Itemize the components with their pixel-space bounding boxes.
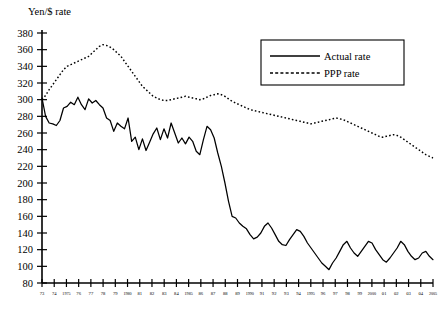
x-tick-label: 73 <box>40 291 45 296</box>
y-tick-label: 360 <box>17 44 33 55</box>
x-tick-label: 76 <box>76 291 81 296</box>
x-tick-label: 1995 <box>307 291 315 296</box>
yen-dollar-rate-chart: Yen/$ rate 80100120140160180200220240260… <box>0 0 440 312</box>
x-tick-label: 1980 <box>123 291 131 296</box>
x-tick-label: 99 <box>357 291 362 296</box>
x-tick-label: 82 <box>150 291 155 296</box>
y-axis-title: Yen/$ rate <box>28 6 71 17</box>
x-tick-label: 1985 <box>185 291 193 296</box>
x-tick-label: 84 <box>174 291 179 296</box>
y-tick-label: 260 <box>17 128 33 139</box>
y-tick-label: 120 <box>17 244 33 255</box>
x-tick-label: 96 <box>321 291 326 296</box>
y-tick-label: 100 <box>17 261 33 272</box>
x-axis-ticks: 7374197576777879198081828384198586878889… <box>40 279 437 296</box>
x-tick-label: 98 <box>345 291 350 296</box>
y-tick-label: 380 <box>17 28 33 39</box>
x-tick-label: 1975 <box>62 291 70 296</box>
x-tick-label: 97 <box>333 291 338 296</box>
actual-rate-line <box>42 97 433 270</box>
x-tick-label: 2000 <box>368 291 376 296</box>
x-tick-label: 77 <box>89 291 94 296</box>
y-tick-label: 80 <box>23 278 34 289</box>
x-tick-label: 81 <box>137 291 142 296</box>
y-tick-label: 160 <box>17 211 33 222</box>
y-tick-label: 320 <box>17 78 33 89</box>
x-tick-label: 74 <box>52 291 57 296</box>
y-tick-label: 200 <box>17 178 33 189</box>
y-tick-label: 220 <box>17 161 33 172</box>
x-tick-label: 03 <box>406 291 411 296</box>
y-tick-label: 180 <box>17 194 33 205</box>
x-tick-label: 94 <box>296 291 301 296</box>
x-tick-label: 2005 <box>429 291 437 296</box>
chart-container: Yen/$ rate 80100120140160180200220240260… <box>0 0 440 312</box>
x-tick-label: 87 <box>211 291 216 296</box>
y-tick-label: 240 <box>17 144 33 155</box>
x-tick-label: 92 <box>272 291 277 296</box>
y-tick-label: 280 <box>17 111 33 122</box>
x-tick-label: 78 <box>101 291 106 296</box>
legend-label-actual-rate: Actual rate <box>324 51 371 62</box>
y-tick-label: 140 <box>17 228 33 239</box>
x-tick-label: 04 <box>418 291 423 296</box>
x-tick-label: 01 <box>382 291 387 296</box>
x-tick-label: 02 <box>394 291 399 296</box>
x-tick-label: 1990 <box>246 291 254 296</box>
x-tick-label: 86 <box>199 291 204 296</box>
y-tick-label: 300 <box>17 94 33 105</box>
y-tick-label: 340 <box>17 61 33 72</box>
x-tick-label: 89 <box>235 291 240 296</box>
x-tick-label: 88 <box>223 291 228 296</box>
x-tick-label: 91 <box>260 291 265 296</box>
x-tick-label: 93 <box>284 291 289 296</box>
x-tick-label: 79 <box>113 291 118 296</box>
legend-label-ppp-rate: PPP rate <box>324 68 360 79</box>
x-tick-label: 83 <box>162 291 167 296</box>
chart-legend: Actual rate PPP rate <box>261 40 404 85</box>
